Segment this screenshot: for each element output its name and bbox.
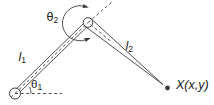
- link1-rod-lower-edge: [17, 24, 90, 95]
- theta2-arrowhead-bottom: [84, 38, 90, 42]
- theta2-rotation-arc: [62, 6, 85, 41]
- end-effector-point: [165, 86, 170, 91]
- label-theta2: θ2: [47, 11, 59, 24]
- manipulator-diagram: l1 l2 θ1 θ2 X(x,y): [0, 0, 214, 105]
- link2-lower-edge: [85, 26, 163, 84]
- theta2-subscript: 2: [53, 15, 58, 25]
- label-link2-length: l2: [126, 40, 134, 53]
- theta2-arrowhead-top: [83, 4, 89, 8]
- link1-subscript: 1: [21, 55, 26, 65]
- link2-centerline-dashed: [91, 25, 113, 43]
- link2-subscript: 2: [128, 44, 133, 54]
- label-theta1: θ1: [31, 79, 42, 91]
- label-link1-length: l1: [19, 51, 27, 64]
- label-endpoint-coordinates: X(x,y): [176, 79, 209, 92]
- theta1-subscript: 1: [37, 82, 42, 92]
